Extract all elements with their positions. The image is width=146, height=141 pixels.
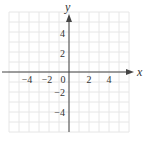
x-tick-label: −2 — [42, 74, 53, 85]
x-tick-label: −4 — [22, 74, 33, 85]
y-tick-label: 2 — [60, 48, 65, 59]
x-tick-label: 0 — [61, 74, 66, 85]
y-tick-label: 4 — [60, 28, 65, 39]
y-tick-label: −4 — [54, 107, 65, 118]
y-axis-arrow-icon — [66, 14, 72, 22]
x-axis-arrow-icon — [126, 69, 134, 75]
y-axis-label: y — [64, 0, 71, 14]
coordinate-plane: x y −4 −2 0 2 4 4 2 −2 −4 — [0, 0, 146, 141]
x-axis-label: x — [136, 65, 143, 79]
y-tick-label: −2 — [54, 87, 65, 98]
x-tick-label: 4 — [107, 74, 112, 85]
x-tick-label: 2 — [87, 74, 92, 85]
